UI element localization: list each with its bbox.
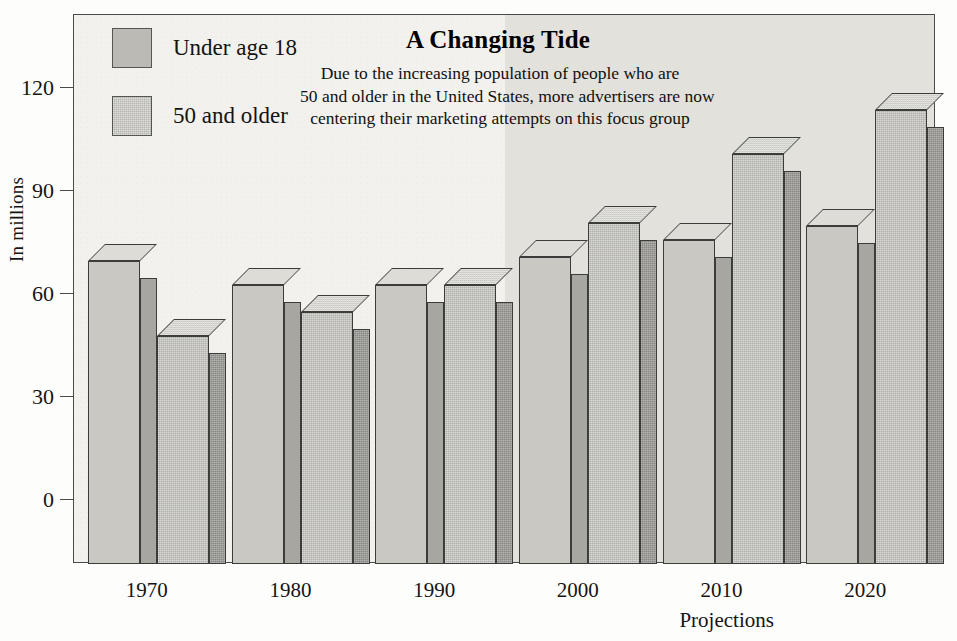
x-axis-caption: Projections [679,608,774,633]
bar-front-face [157,336,209,564]
bar-front-face [301,312,353,564]
y-axis-label: In millions [6,177,28,262]
bar-side-face [140,278,157,564]
legend-item-under-18: Under age 18 [112,28,297,68]
bar-1990-series-2 [444,285,496,564]
bar-2000-series-1 [519,257,571,564]
bar-1970-series-1 [88,261,140,564]
x-tick-label-1980: 1980 [270,578,312,603]
legend-swatch-under-18 [112,28,152,68]
legend-label-50-and-older: 50 and older [173,103,288,129]
bar-2020-series-2 [875,110,927,564]
bar-top-face [444,268,513,285]
bar-front-face [588,223,640,564]
bar-front-face [88,261,140,564]
bar-top-face [157,319,226,336]
bar-side-face [640,240,657,564]
y-tick-mark [60,499,73,500]
x-tick-label-2000: 2000 [557,578,599,603]
bar-side-face [784,171,801,564]
bar-front-face [375,285,427,564]
y-tick-mark [60,396,73,397]
bar-side-face [927,127,944,564]
bar-top-face [88,244,157,261]
bar-side-face [284,302,301,564]
y-tick-label: 90 [32,178,54,204]
x-tick-label-2010: 2010 [701,578,743,603]
bar-2010-series-2 [732,154,784,564]
bar-front-face [444,285,496,564]
bar-top-face [301,295,370,312]
bar-2000-series-2 [588,223,640,564]
bar-front-face [519,257,571,564]
bar-side-face [496,302,513,564]
bar-side-face [353,329,370,564]
x-tick-label-1970: 1970 [126,578,168,603]
bar-front-face [232,285,284,564]
chart-subtitle-line-3: centering their marketing attempts on th… [300,107,700,130]
legend-item-50-and-older: 50 and older [112,96,288,136]
bar-side-face [571,274,588,564]
bar-1990-series-1 [375,285,427,564]
bar-side-face [858,243,875,564]
x-tick-label-2020: 2020 [844,578,886,603]
legend-swatch-50-and-older [112,96,152,136]
y-tick-mark [60,190,73,191]
bar-2010-series-1 [663,240,715,564]
bar-top-face [232,268,301,285]
chart-title: A Changing Tide [348,26,648,54]
bar-1980-series-1 [232,285,284,564]
x-tick-label-1990: 1990 [413,578,455,603]
chart-subtitle-line-2: 50 and older in the United States, more … [300,85,700,108]
y-tick-label: 120 [21,75,54,101]
bar-1980-series-2 [301,312,353,564]
chart-subtitle-line-1: Due to the increasing population of peop… [300,62,700,85]
bar-2020-series-1 [806,226,858,564]
bar-top-face [375,268,444,285]
bar-front-face [663,240,715,564]
y-tick-label: 30 [32,384,54,410]
y-tick-mark [60,293,73,294]
bar-side-face [209,353,226,564]
bar-front-face [732,154,784,564]
chart-subtitle: Due to the increasing population of peop… [300,62,700,130]
y-tick-label: 0 [43,487,54,513]
y-tick-mark [60,87,73,88]
legend-label-under-18: Under age 18 [173,35,297,61]
bar-front-face [806,226,858,564]
bar-side-face [715,257,732,564]
y-tick-label: 60 [32,281,54,307]
bar-1970-series-2 [157,336,209,564]
chart-figure: In millions 0306090120 19701980199020002… [0,0,957,641]
bar-front-face [875,110,927,564]
bar-side-face [427,302,444,564]
